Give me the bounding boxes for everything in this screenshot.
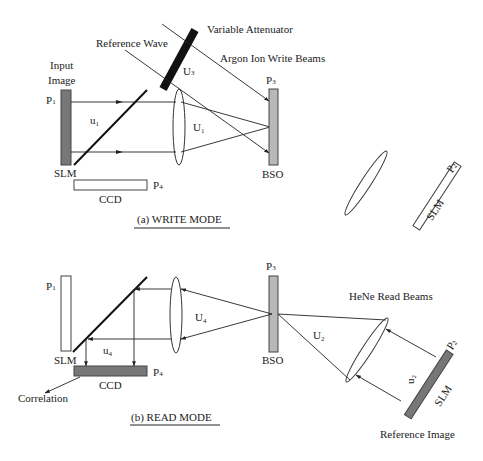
label-ccd: CCD <box>99 193 122 205</box>
input-slm <box>61 90 71 165</box>
label-p3: P3 <box>266 74 276 86</box>
input-slm-read <box>61 276 71 351</box>
optical-correlator-diagram: Variable Attenuator Reference Wave Argon… <box>0 0 483 461</box>
ccd-write <box>74 180 147 190</box>
label-u3: U3 <box>183 65 195 77</box>
label-image: Image <box>48 74 76 86</box>
label-argon-beams: Argon Ion Write Beams <box>220 52 325 64</box>
label-variable-attenuator: Variable Attenuator <box>207 23 293 35</box>
lens-u1 <box>173 89 185 165</box>
caption-write-mode: (a) WRITE MODE <box>137 213 222 226</box>
hene-beam-bottom <box>356 375 401 401</box>
label-slm: SLM <box>54 167 77 179</box>
lens-to-bso-bottom <box>278 314 350 380</box>
label-p1: P1 <box>46 94 56 106</box>
lens-to-bso-top <box>278 314 386 320</box>
bso-crystal <box>269 89 278 165</box>
label-u2-small: u2 <box>404 375 418 385</box>
label-p3-read: P3 <box>266 260 276 272</box>
arrow-icon <box>116 150 123 154</box>
beam-splitter-read <box>73 277 147 352</box>
arrow-icon <box>116 100 123 104</box>
label-slm-read: SLM <box>54 354 77 366</box>
lens-u2-idle <box>341 148 391 217</box>
label-ccd-read: CCD <box>99 379 122 391</box>
label-p4: P4 <box>153 179 163 191</box>
ccd-read <box>74 366 147 376</box>
label-reference-image: Reference Image <box>380 428 455 440</box>
lens-u4 <box>170 277 182 353</box>
label-u1-lens: U1 <box>193 121 205 135</box>
label-p1-read: P1 <box>46 280 56 292</box>
label-reference-wave: Reference Wave <box>96 37 168 49</box>
label-u4-small: u4 <box>103 344 113 358</box>
label-slm2-read: SLM <box>432 383 455 409</box>
label-correlation: Correlation <box>18 392 69 404</box>
lens-u2 <box>342 315 392 384</box>
label-u1-small: u1 <box>90 114 100 128</box>
label-p4-read: P4 <box>153 366 163 378</box>
label-input: Input <box>50 59 73 71</box>
hene-beam-top <box>386 329 436 357</box>
label-bso-read: BSO <box>262 354 283 366</box>
label-slm2: SLM <box>424 197 447 223</box>
beam-splitter <box>74 90 147 165</box>
label-bso: BSO <box>262 168 283 180</box>
label-hene-beams: HeNe Read Beams <box>349 290 433 302</box>
label-u4-lens: U4 <box>195 311 207 325</box>
correlation-arrow <box>45 377 80 393</box>
reference-wave-beam <box>125 50 269 153</box>
read-mode-panel: P1 SLM u4 U4 P4 CCD Correlation P3 BSO U… <box>18 260 459 440</box>
caption-read-mode: (b) READ MODE <box>131 411 212 424</box>
label-u2-lens: U2 <box>313 329 325 343</box>
write-mode-panel: Variable Attenuator Reference Wave Argon… <box>46 23 461 230</box>
